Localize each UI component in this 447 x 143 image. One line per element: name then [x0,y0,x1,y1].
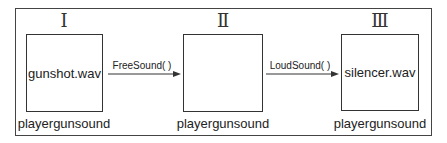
transition-label-loudsound: LoudSound( ) [266,60,334,71]
transition-arrows [0,0,447,143]
transition-label-freesound: FreeSound( ) [108,60,176,71]
loudsound-arrowhead-icon [331,71,339,77]
freesound-arrowhead-icon [173,71,181,77]
